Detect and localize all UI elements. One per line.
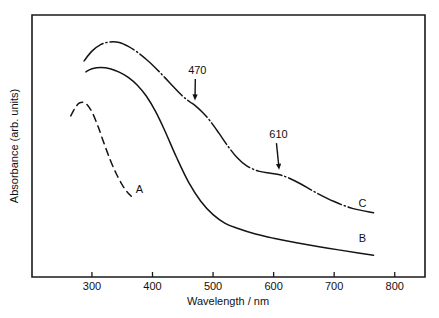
- annotation-arrowhead-610: [276, 164, 281, 170]
- data-curves: [71, 42, 374, 255]
- annotation-arrow-line-610: [276, 143, 278, 167]
- curve-label-B: B: [359, 232, 366, 244]
- peak-annotations: 470610: [188, 64, 288, 170]
- curve-A: [71, 102, 132, 196]
- annotation-label-610: 610: [269, 128, 287, 140]
- curve-B: [86, 67, 374, 255]
- curve-label-C: C: [359, 197, 367, 209]
- x-tick-label-600: 600: [264, 280, 282, 292]
- annotation-label-470: 470: [188, 64, 206, 76]
- x-axis-tick-labels: 300400500600700800: [83, 280, 404, 292]
- x-axis-title: Wavelength / nm: [187, 295, 269, 307]
- x-tick-label-500: 500: [204, 280, 222, 292]
- chart-canvas: 300400500600700800 ABC 470610 Wavelength…: [0, 0, 439, 318]
- y-axis-title: Absorbance (arb. units): [8, 89, 20, 203]
- x-tick-label-800: 800: [386, 280, 404, 292]
- x-tick-label-700: 700: [325, 280, 343, 292]
- curve-label-A: A: [136, 183, 144, 195]
- x-tick-label-400: 400: [143, 280, 161, 292]
- absorbance-spectra-figure: 300400500600700800 ABC 470610 Wavelength…: [0, 0, 439, 318]
- annotation-arrowhead-470: [192, 94, 197, 100]
- curve-C: [84, 42, 373, 213]
- x-tick-label-300: 300: [83, 280, 101, 292]
- curve-labels: ABC: [136, 183, 367, 244]
